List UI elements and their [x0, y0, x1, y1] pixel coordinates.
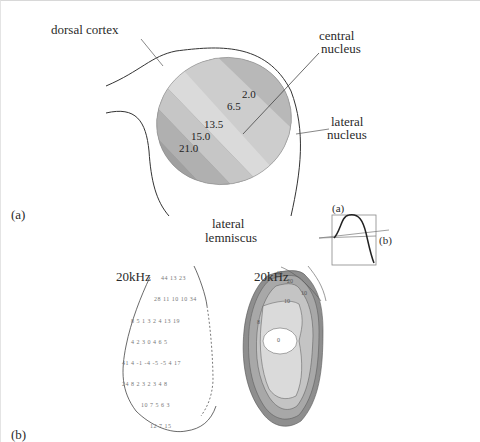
- band-value: 15.0: [191, 130, 210, 142]
- band-value: 21.0: [179, 142, 198, 154]
- grid-row: 28 11 10 10 34: [154, 296, 197, 302]
- band-value: 6.5: [227, 100, 241, 112]
- contour-label: 0: [277, 337, 280, 343]
- panel-a-label: (a): [11, 207, 25, 222]
- contour-label: 10: [284, 298, 290, 304]
- grid-row: 41 4 -1 -4 -5 -5 4 17: [122, 360, 181, 366]
- label-dorsal-cortex: dorsal cortex: [51, 22, 119, 37]
- band-value: 13.5: [204, 118, 223, 130]
- grid-row: 10 7 5 6 3: [141, 402, 170, 408]
- left-map-title: 20kHz: [116, 269, 151, 284]
- inset-label-a: (a): [332, 201, 344, 216]
- contour-label: 40: [276, 270, 282, 276]
- contour-map: [243, 266, 326, 426]
- band-value: 2.0: [242, 88, 256, 100]
- grid-row: 12 7 15: [150, 423, 172, 429]
- figure: dorsal cortex central nucleus lateral nu…: [0, 0, 480, 442]
- inset-label-b: (b): [379, 233, 392, 248]
- grid-row: 4 2 3 0 4 6 5: [131, 339, 168, 345]
- grid-row: 8 5 1 3 2 4 13 19: [131, 318, 180, 324]
- right-map-title: 20kHz: [254, 269, 289, 284]
- panel-b-label: (b): [11, 427, 26, 442]
- label-lateral-lemniscus-line2: lemniscus: [205, 230, 257, 245]
- label-central-nucleus-line2: nucleus: [321, 41, 361, 56]
- contour-label: 8: [257, 319, 260, 325]
- label-lateral-nucleus-line2: nucleus: [327, 127, 367, 142]
- contour-label: 20: [287, 278, 293, 284]
- label-lateral-lemniscus-line1: lateral: [212, 216, 244, 231]
- contour-label: 10: [301, 290, 307, 296]
- grid-row: 24 8 2 3 2 3 4 8: [122, 381, 168, 387]
- grid-row: 44 13 23: [161, 275, 186, 281]
